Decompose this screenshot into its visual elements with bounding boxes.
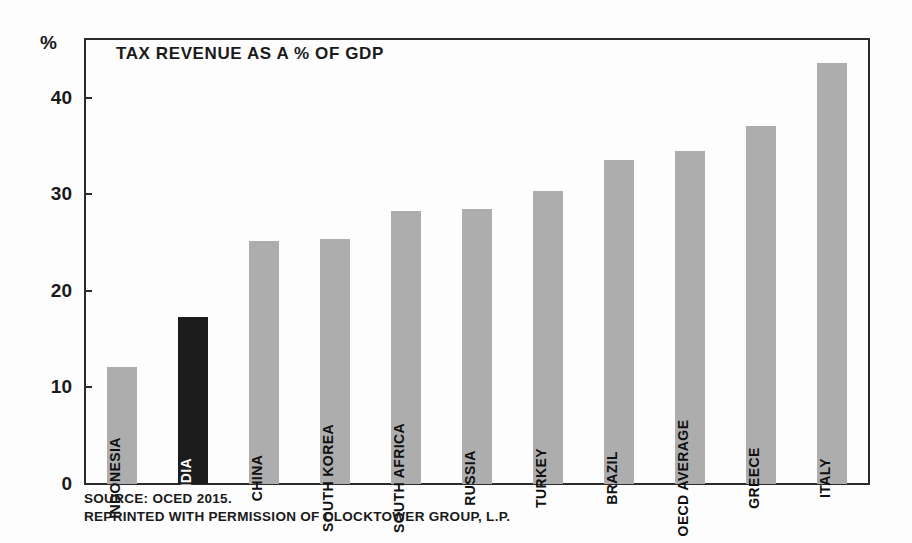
bar-turkey[interactable]: TURKEY <box>533 191 563 484</box>
bar-south-africa[interactable]: SOUTH AFRICA <box>391 211 421 484</box>
bar-brazil[interactable]: BRAZIL <box>604 160 634 484</box>
bar-group[interactable]: OECD AVERAGE <box>675 40 705 484</box>
footer-source-line: SOURCE: OCED 2015. <box>84 490 510 508</box>
y-tick-mark-20 <box>84 290 92 292</box>
y-tick-mark-10 <box>84 386 92 388</box>
footer-permission-line: REPRINTED WITH PERMISSION OF CLOCKTOWER … <box>84 508 510 526</box>
y-tick-mark-40 <box>84 97 92 99</box>
bar-india[interactable]: INDIA <box>178 317 208 484</box>
y-tick-label-30: 30 <box>30 183 72 205</box>
bar-group[interactable]: INDONESIA <box>107 40 137 484</box>
y-axis-tick-labels: 010203040 <box>20 0 72 543</box>
bar-label-greece: GREECE <box>747 447 761 509</box>
bar-italy[interactable]: ITALY <box>817 63 847 484</box>
y-tick-label-40: 40 <box>30 87 72 109</box>
bar-group[interactable]: RUSSIA <box>462 40 492 484</box>
bar-group[interactable]: SOUTH KOREA <box>320 40 350 484</box>
bar-group[interactable]: ITALY <box>817 40 847 484</box>
bars-container: INDONESIAINDIACHINASOUTH KOREASOUTH AFRI… <box>86 40 868 484</box>
bar-group[interactable]: GREECE <box>746 40 776 484</box>
bar-indonesia[interactable]: INDONESIA <box>107 367 137 484</box>
y-tick-label-10: 10 <box>30 376 72 398</box>
y-tick-label-20: 20 <box>30 280 72 302</box>
bar-label-italy: ITALY <box>818 458 832 498</box>
tax-revenue-bar-chart: % 010203040 TAX REVENUE AS A % OF GDP IN… <box>0 0 912 543</box>
bar-label-oecd-average: OECD AVERAGE <box>676 420 690 537</box>
bar-group[interactable]: CHINA <box>249 40 279 484</box>
y-tick-mark-30 <box>84 193 92 195</box>
bar-greece[interactable]: GREECE <box>746 126 776 484</box>
bar-oecd-average[interactable]: OECD AVERAGE <box>675 151 705 484</box>
bar-label-brazil: BRAZIL <box>605 451 619 505</box>
bar-south-korea[interactable]: SOUTH KOREA <box>320 239 350 484</box>
footer-note: SOURCE: OCED 2015. REPRINTED WITH PERMIS… <box>84 490 510 526</box>
bar-group[interactable]: BRAZIL <box>604 40 634 484</box>
bar-label-turkey: TURKEY <box>534 448 548 508</box>
bar-group[interactable]: SOUTH AFRICA <box>391 40 421 484</box>
bar-russia[interactable]: RUSSIA <box>462 209 492 484</box>
bar-group[interactable]: TURKEY <box>533 40 563 484</box>
bar-china[interactable]: CHINA <box>249 241 279 484</box>
y-tick-label-0: 0 <box>30 473 72 495</box>
bar-group[interactable]: INDIA <box>178 40 208 484</box>
